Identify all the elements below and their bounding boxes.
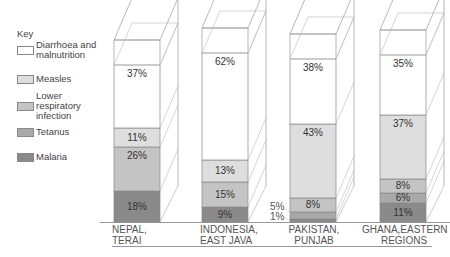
segment-value-label: 11% (114, 132, 160, 143)
segment-value-label: 6% (380, 192, 426, 203)
category-label: GHANA,EASTERNREGIONS (362, 224, 446, 246)
segment-value-label: 26% (114, 150, 160, 161)
segment-value-label: 8% (290, 199, 336, 210)
bar-0 (114, 65, 160, 222)
category-label-line: PUNJAB (284, 235, 344, 246)
category-label-line: EAST JAVA (200, 235, 258, 246)
category-label: NEPAL,TERAI (112, 224, 147, 246)
category-label: INDONESIA,EAST JAVA (200, 224, 258, 246)
category-label-line: INDONESIA, (200, 224, 258, 235)
bar-2 (290, 59, 336, 222)
segment-value-label: 18% (114, 201, 160, 212)
bar-segment (290, 212, 336, 219)
segment-value-label: 38% (290, 62, 336, 73)
segment-value-label: 8% (380, 180, 426, 191)
segment-value-label: 13% (202, 165, 248, 176)
segment-value-label: 43% (290, 127, 336, 138)
category-label-line: NEPAL, (112, 224, 147, 235)
bar-segment (202, 53, 248, 160)
category-label: PAKISTAN,PUNJAB (284, 224, 344, 246)
segment-value-label: 35% (380, 58, 426, 69)
category-label-line: TERAI (112, 235, 147, 246)
category-label-line: REGIONS (362, 235, 446, 246)
category-label-line: GHANA,EASTERN (362, 224, 446, 235)
segment-value-label: 62% (202, 56, 248, 67)
segment-value-label: 9% (202, 209, 248, 220)
segment-value-label: 37% (114, 68, 160, 79)
segment-value-label: 37% (380, 118, 426, 129)
bar-segment (290, 219, 336, 222)
pakistan-malaria-label: 1% (270, 211, 284, 222)
category-label-line: PAKISTAN, (284, 224, 344, 235)
segment-value-label: 15% (202, 189, 248, 200)
segment-value-label: 11% (380, 207, 426, 218)
